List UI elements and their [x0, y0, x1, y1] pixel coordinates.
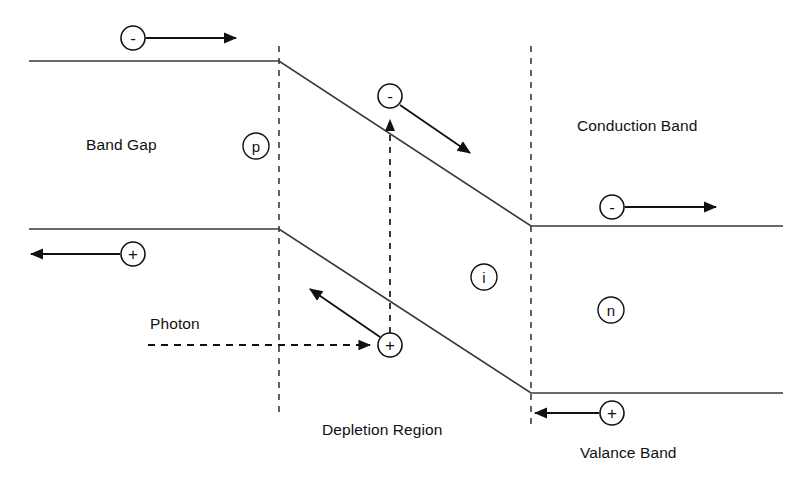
- photon-label: Photon: [150, 315, 200, 333]
- hole-drift-arrow-depletion: [310, 289, 380, 337]
- electron-right: -: [600, 195, 624, 219]
- n-region-label: n: [607, 302, 615, 319]
- electron-sign-label: -: [130, 29, 136, 48]
- hole-sign-label: +: [128, 245, 138, 264]
- n-region-marker: n: [598, 297, 624, 323]
- electron-sign-label: -: [609, 198, 615, 217]
- valance-band-label: Valance Band: [580, 444, 677, 462]
- p-region-label: p: [252, 138, 260, 155]
- hole-right: +: [600, 401, 624, 425]
- band-diagram-canvas: - - - + + + p i: [0, 0, 807, 492]
- electron-depletion: -: [378, 84, 402, 108]
- band-gap-label: Band Gap: [86, 136, 157, 154]
- electron-top-left: -: [121, 26, 145, 50]
- i-region-label: i: [482, 269, 485, 286]
- electron-drift-arrow-depletion: [400, 105, 470, 153]
- hole-left: +: [121, 242, 145, 266]
- hole-sign-label: +: [607, 404, 617, 423]
- hole-depletion: +: [378, 333, 402, 357]
- p-region-marker: p: [243, 133, 269, 159]
- i-region-marker: i: [471, 264, 497, 290]
- conduction-band-label: Conduction Band: [577, 117, 697, 135]
- electron-sign-label: -: [387, 87, 393, 106]
- hole-sign-label: +: [385, 336, 395, 355]
- depletion-region-label: Depletion Region: [322, 421, 443, 439]
- band-diagram-figure: - - - + + + p i: [0, 0, 807, 492]
